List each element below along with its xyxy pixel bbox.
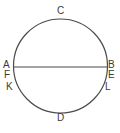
point-label-c: C: [57, 6, 64, 16]
point-label-d: D: [57, 113, 64, 123]
geometry-figure: C A B F E K L D: [0, 0, 120, 133]
point-label-f: F: [4, 70, 10, 80]
point-label-e: E: [108, 70, 115, 80]
circle-outline: [14, 19, 108, 113]
point-label-k: K: [6, 82, 13, 92]
point-label-l: L: [105, 82, 111, 92]
